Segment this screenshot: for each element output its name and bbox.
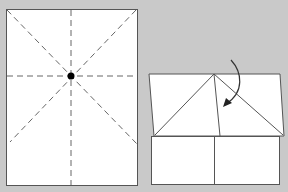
center-point-dot: [68, 73, 75, 80]
origami-diagram: [0, 0, 288, 192]
bottom-panel: [152, 137, 280, 185]
step-1-crease-pattern: [7, 10, 138, 186]
step-2-folded-model: [149, 60, 284, 185]
paper-sheet: [7, 10, 138, 186]
